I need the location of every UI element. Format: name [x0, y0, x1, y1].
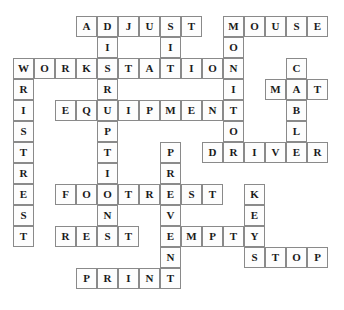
crossword-cell[interactable]: I [97, 37, 118, 58]
crossword-cell[interactable]: N [202, 100, 223, 121]
crossword-cell[interactable]: D [97, 16, 118, 37]
crossword-cell[interactable]: S [286, 16, 307, 37]
crossword-cell[interactable]: V [160, 205, 181, 226]
crossword-cell[interactable]: A [76, 16, 97, 37]
crossword-cell[interactable]: I [13, 100, 34, 121]
crossword-cell[interactable]: A [139, 58, 160, 79]
crossword-cell[interactable]: M [160, 100, 181, 121]
crossword-cell[interactable]: I [160, 37, 181, 58]
crossword-cell[interactable]: I [118, 268, 139, 289]
crossword-cell[interactable]: K [76, 58, 97, 79]
crossword-cell[interactable]: S [160, 16, 181, 37]
crossword-cell[interactable]: N [139, 268, 160, 289]
crossword-cell[interactable]: T [97, 142, 118, 163]
crossword-cell[interactable]: U [139, 16, 160, 37]
crossword-cell[interactable]: T [181, 16, 202, 37]
crossword-cell[interactable]: R [97, 268, 118, 289]
crossword-cell[interactable]: E [160, 184, 181, 205]
crossword-cell[interactable]: R [55, 226, 76, 247]
crossword-cell[interactable]: T [223, 100, 244, 121]
crossword-cell[interactable]: S [244, 247, 265, 268]
crossword-cell[interactable]: T [13, 142, 34, 163]
crossword-cell[interactable]: S [181, 184, 202, 205]
crossword-cell[interactable]: S [13, 205, 34, 226]
crossword-cell[interactable]: C [286, 58, 307, 79]
crossword-cell[interactable]: R [160, 163, 181, 184]
crossword-cell[interactable]: U [97, 100, 118, 121]
crossword-cell[interactable]: E [76, 226, 97, 247]
crossword-cell[interactable]: E [160, 226, 181, 247]
crossword-cell[interactable]: I [97, 163, 118, 184]
crossword-cell[interactable]: R [13, 79, 34, 100]
crossword-cell[interactable]: L [286, 121, 307, 142]
crossword-cell[interactable]: R [97, 79, 118, 100]
crossword-cell[interactable]: O [76, 184, 97, 205]
crossword-cell[interactable]: S [13, 121, 34, 142]
crossword-cell[interactable]: E [286, 142, 307, 163]
crossword-cell[interactable]: R [139, 184, 160, 205]
crossword-cell[interactable]: T [160, 268, 181, 289]
crossword-cell[interactable]: I [118, 100, 139, 121]
crossword-cell[interactable]: E [13, 184, 34, 205]
crossword-cell[interactable]: P [76, 268, 97, 289]
crossword-cell[interactable]: N [223, 58, 244, 79]
crossword-cell[interactable]: A [286, 79, 307, 100]
crossword-cell[interactable]: R [55, 58, 76, 79]
crossword-cell[interactable]: I [244, 142, 265, 163]
crossword-cell[interactable]: T [118, 184, 139, 205]
crossword-cell[interactable]: P [97, 121, 118, 142]
crossword-cell[interactable]: O [202, 58, 223, 79]
crossword-cell[interactable]: E [55, 100, 76, 121]
crossword-cell[interactable]: M [265, 79, 286, 100]
crossword-cell[interactable]: T [202, 184, 223, 205]
crossword-cell[interactable]: T [265, 247, 286, 268]
crossword-cell[interactable]: S [97, 226, 118, 247]
crossword-cell[interactable]: U [265, 16, 286, 37]
crossword-cell[interactable]: R [307, 142, 328, 163]
crossword-cell[interactable]: O [97, 184, 118, 205]
crossword-cell[interactable]: N [160, 247, 181, 268]
crossword-cell[interactable]: P [160, 142, 181, 163]
crossword-cell[interactable]: E [244, 205, 265, 226]
crossword-cell[interactable]: W [13, 58, 34, 79]
crossword-cell[interactable]: P [202, 226, 223, 247]
crossword-cell[interactable]: T [118, 58, 139, 79]
crossword-cell[interactable]: O [286, 247, 307, 268]
crossword-cell[interactable]: R [13, 163, 34, 184]
crossword-cell[interactable]: O [244, 16, 265, 37]
crossword-cell[interactable]: P [139, 100, 160, 121]
crossword-cell[interactable]: O [223, 37, 244, 58]
crossword-cell[interactable]: P [307, 247, 328, 268]
crossword-cell[interactable]: M [223, 16, 244, 37]
crossword-cell[interactable]: S [97, 58, 118, 79]
crossword-cell[interactable]: D [202, 142, 223, 163]
crossword-cell[interactable]: N [97, 205, 118, 226]
crossword-grid: ADJUSTMOUSEIIOWORKSTATIONCRRIMATIEQUIPME… [0, 0, 344, 310]
crossword-cell[interactable]: T [13, 226, 34, 247]
crossword-cell[interactable]: I [181, 58, 202, 79]
crossword-cell[interactable]: B [286, 100, 307, 121]
crossword-cell[interactable]: K [244, 184, 265, 205]
crossword-cell[interactable]: E [181, 100, 202, 121]
crossword-cell[interactable]: O [223, 121, 244, 142]
crossword-cell[interactable]: T [160, 58, 181, 79]
crossword-cell[interactable]: J [118, 16, 139, 37]
crossword-cell[interactable]: I [223, 79, 244, 100]
crossword-cell[interactable]: T [118, 226, 139, 247]
crossword-cell[interactable]: M [181, 226, 202, 247]
crossword-cell[interactable]: R [223, 142, 244, 163]
crossword-cell[interactable]: O [34, 58, 55, 79]
crossword-cell[interactable]: Q [76, 100, 97, 121]
crossword-cell[interactable]: E [307, 16, 328, 37]
crossword-cell[interactable]: Y [244, 226, 265, 247]
crossword-cell[interactable]: T [223, 226, 244, 247]
crossword-cell[interactable]: T [307, 79, 328, 100]
crossword-cell[interactable]: F [55, 184, 76, 205]
crossword-cell[interactable]: V [265, 142, 286, 163]
